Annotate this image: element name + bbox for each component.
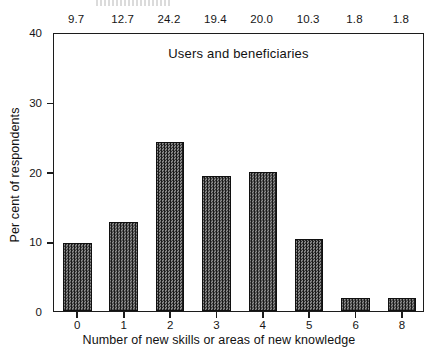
x-tick-label: 2 xyxy=(147,318,193,332)
bar-3[interactable] xyxy=(202,176,231,311)
bar-value-label: 1.8 xyxy=(331,12,377,27)
bar-5[interactable] xyxy=(295,239,324,311)
y-tick-label: 40 xyxy=(0,27,42,39)
bar-value-label: 24.2 xyxy=(146,12,192,27)
bars-layer xyxy=(54,34,423,311)
bar-value-label: 12.7 xyxy=(99,12,145,27)
bar-value-label: 20.0 xyxy=(239,12,285,27)
bar-6[interactable] xyxy=(341,298,370,311)
x-tick-label: 6 xyxy=(332,318,378,332)
bar-value-label: 9.7 xyxy=(53,12,99,27)
y-axis-label: Per cent of respondents xyxy=(8,75,22,275)
x-tick-label: 5 xyxy=(286,318,332,332)
bar-1[interactable] xyxy=(109,222,138,311)
bar-chart-figure: 9.7 12.7 24.2 19.4 20.0 10.3 1.8 1.8 40 … xyxy=(0,0,438,351)
y-tick-label: 0 xyxy=(0,306,42,318)
x-tick-label: 3 xyxy=(193,318,239,332)
plot-area: Users and beneficiaries xyxy=(53,33,424,312)
bar-value-labels: 9.7 12.7 24.2 19.4 20.0 10.3 1.8 1.8 xyxy=(53,12,424,27)
x-axis-label: Number of new skills or areas of new kno… xyxy=(0,333,438,347)
bar-value-label: 1.8 xyxy=(378,12,424,27)
bar-value-label: 10.3 xyxy=(285,12,331,27)
cropped-text-artifact xyxy=(96,0,170,6)
bar-value-label: 19.4 xyxy=(192,12,238,27)
bar-0[interactable] xyxy=(63,243,92,311)
bar-2[interactable] xyxy=(156,142,185,311)
bar-7[interactable] xyxy=(388,298,417,311)
x-tick-label: 8 xyxy=(379,318,425,332)
x-tick-label: 0 xyxy=(54,318,100,332)
bar-4[interactable] xyxy=(249,172,278,312)
x-tick-label: 1 xyxy=(101,318,147,332)
x-tick-label: 4 xyxy=(240,318,286,332)
